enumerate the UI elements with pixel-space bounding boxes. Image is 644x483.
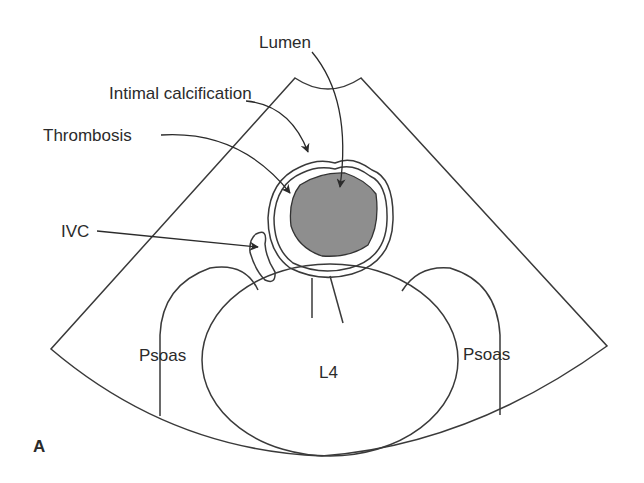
lumen-fill: [290, 173, 377, 256]
thrombosis-leader-arrow: [161, 135, 290, 193]
label-ivc: IVC: [61, 223, 89, 240]
panel-label: A: [33, 438, 45, 455]
lumen-leader-arrow: [312, 52, 343, 187]
label-thrombosis: Thrombosis: [43, 127, 132, 144]
intimal-calcification-leader-arrow: [246, 101, 308, 152]
label-lumen: Lumen: [259, 34, 311, 51]
ultrasound-sector-diagram: [0, 0, 644, 483]
ivc-leader-arrow: [97, 231, 258, 247]
label-l4: L4: [319, 364, 338, 381]
sector-outline: [51, 78, 607, 456]
label-intimal-calcification: Intimal calcification: [109, 85, 252, 102]
l4-vertebra-outline: [202, 264, 458, 456]
label-psoas-right: Psoas: [463, 346, 510, 363]
label-psoas-left: Psoas: [139, 347, 186, 364]
spinous-line-right: [330, 276, 343, 323]
